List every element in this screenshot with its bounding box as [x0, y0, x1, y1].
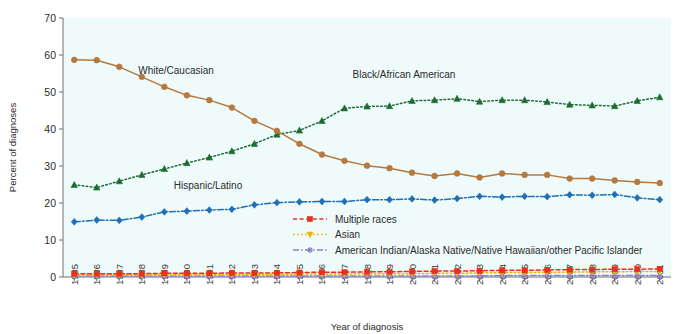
- data-point-marker: [184, 271, 189, 276]
- legend-item-label: Multiple races: [335, 214, 397, 225]
- data-point-marker: [432, 173, 438, 179]
- data-point-marker: [545, 267, 550, 272]
- data-point-marker: [206, 97, 212, 103]
- data-point-marker: [567, 176, 573, 182]
- data-point-marker: [499, 171, 505, 177]
- data-point-marker: [229, 270, 234, 275]
- data-point-marker: [117, 271, 122, 276]
- y-axis-tick-label: 60: [44, 49, 56, 61]
- data-point-marker: [657, 266, 662, 271]
- y-axis-tick-label: 30: [44, 160, 56, 172]
- chart-container: 010203040506070Percent of diagnoses19851…: [0, 0, 688, 334]
- data-point-marker: [94, 57, 100, 63]
- data-point-marker: [477, 175, 483, 181]
- data-point-marker: [454, 268, 459, 273]
- data-point-marker: [319, 152, 325, 158]
- y-axis-title: Percent of diagnoses: [7, 103, 18, 193]
- data-point-marker: [657, 180, 663, 186]
- data-point-marker: [612, 267, 617, 272]
- data-point-marker: [432, 268, 437, 273]
- data-point-marker: [252, 118, 258, 124]
- data-point-marker: [409, 170, 415, 176]
- data-point-marker: [590, 267, 595, 272]
- data-point-marker: [409, 269, 414, 274]
- data-point-marker: [612, 178, 618, 184]
- series-inline-label: Black/African American: [353, 69, 456, 80]
- x-axis-title: Year of diagnosis: [331, 321, 404, 332]
- data-point-marker: [184, 92, 190, 98]
- data-point-marker: [207, 271, 212, 276]
- data-point-marker: [274, 270, 279, 275]
- y-axis-tick-label: 0: [50, 271, 56, 283]
- data-point-marker: [274, 128, 280, 134]
- y-axis-tick-label: 70: [44, 12, 56, 24]
- data-point-marker: [72, 271, 77, 276]
- data-point-marker: [635, 267, 640, 272]
- legend-item-label: American Indian/Alaska Native/Native Haw…: [335, 245, 643, 256]
- data-point-marker: [307, 247, 313, 253]
- data-point-marker: [139, 271, 144, 276]
- series-inline-label: Hispanic/Latino: [174, 180, 243, 191]
- data-point-marker: [71, 57, 77, 63]
- data-point-marker: [319, 270, 324, 275]
- data-point-marker: [297, 270, 302, 275]
- data-point-marker: [567, 267, 572, 272]
- data-point-marker: [297, 141, 303, 147]
- data-point-marker: [522, 172, 528, 178]
- data-point-marker: [589, 176, 595, 182]
- y-axis-tick-label: 50: [44, 86, 56, 98]
- data-point-marker: [116, 64, 122, 70]
- data-point-marker: [387, 269, 392, 274]
- data-point-marker: [229, 105, 235, 111]
- data-point-marker: [634, 179, 640, 185]
- y-axis-tick-label: 10: [44, 234, 56, 246]
- data-point-marker: [544, 172, 550, 178]
- data-point-marker: [387, 165, 393, 171]
- y-axis-tick-label: 20: [44, 197, 56, 209]
- data-point-marker: [364, 269, 369, 274]
- race-ethnicity-hiv-diagnoses-line-chart: 010203040506070Percent of diagnoses19851…: [0, 0, 688, 334]
- plot-background: [63, 18, 671, 277]
- data-point-marker: [162, 271, 167, 276]
- data-point-marker: [252, 270, 257, 275]
- data-point-marker: [500, 268, 505, 273]
- data-point-marker: [94, 271, 99, 276]
- data-point-marker: [522, 268, 527, 273]
- data-point-marker: [364, 163, 370, 169]
- data-point-marker: [342, 158, 348, 164]
- y-axis-tick-label: 40: [44, 123, 56, 135]
- data-point-marker: [307, 216, 312, 221]
- series-inline-label: White/Caucasian: [138, 65, 214, 76]
- data-point-marker: [161, 84, 167, 90]
- data-point-marker: [477, 268, 482, 273]
- legend-item-label: Asian: [335, 229, 360, 240]
- data-point-marker: [454, 171, 460, 177]
- data-point-marker: [342, 270, 347, 275]
